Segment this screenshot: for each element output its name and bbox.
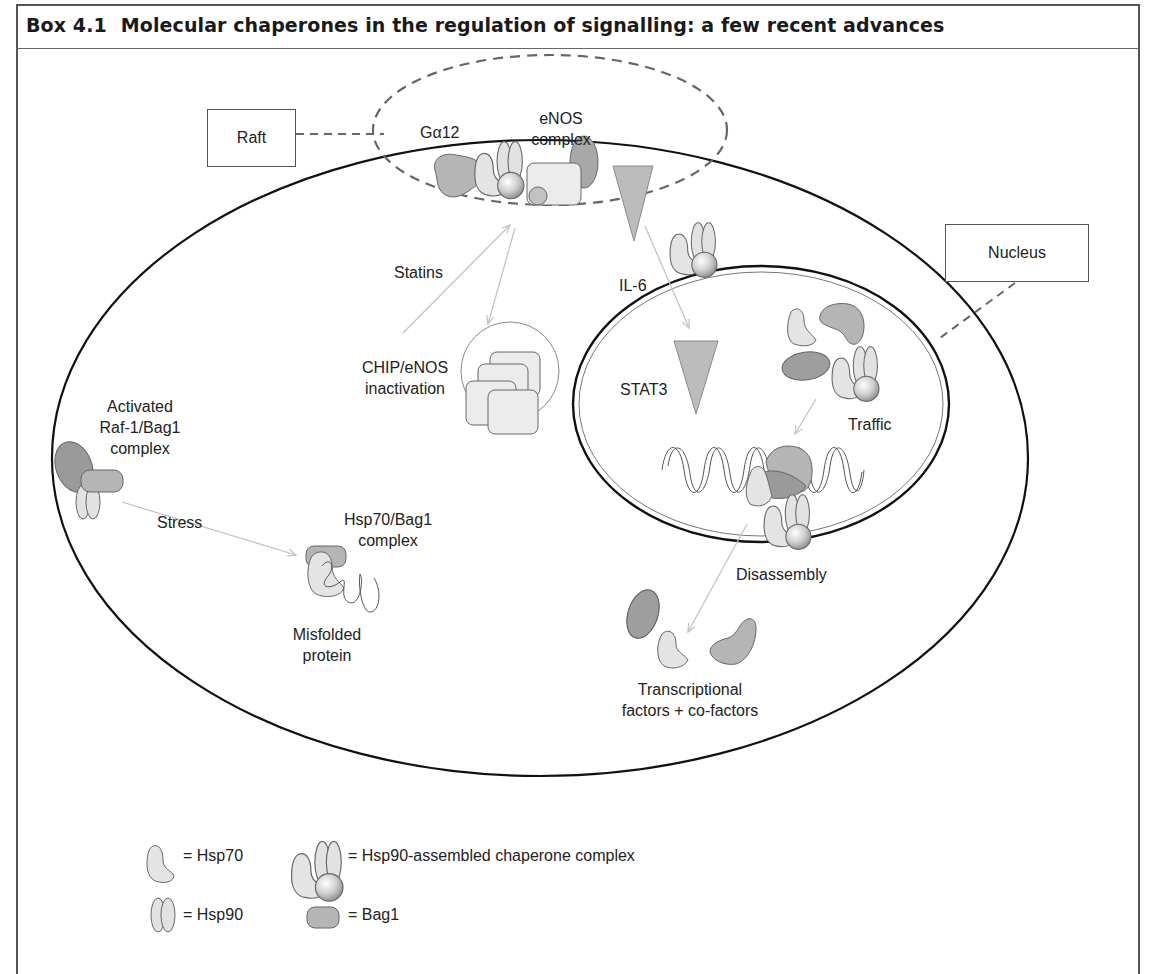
label-stress: Stress xyxy=(157,512,202,533)
nucleus-callout: Nucleus xyxy=(945,224,1089,282)
free-chaperone-complex xyxy=(670,223,717,278)
cell-membrane xyxy=(52,140,1028,776)
label-chip-enos: CHIP/eNOS inactivation xyxy=(355,357,455,399)
label-enos-line2: complex xyxy=(521,129,601,150)
chip-block-4 xyxy=(488,390,538,434)
traffic-arrow xyxy=(795,399,816,434)
label-traffic: Traffic xyxy=(848,414,892,435)
legend-hsp70-icon xyxy=(147,846,174,883)
label-hsp70-bag1: Hsp70/Bag1 complex xyxy=(338,509,438,551)
label-misfolded-protein: Misfolded protein xyxy=(277,624,377,666)
released-cofactor xyxy=(621,586,665,643)
label-chip-line1: CHIP/eNOS xyxy=(355,357,455,378)
legend-hsp90-complex-icon xyxy=(292,841,343,901)
label-misfolded-line2: protein xyxy=(277,645,377,666)
legend-bag1-label: = Bag1 xyxy=(348,906,399,924)
label-galpha12: Gα12 xyxy=(420,122,460,143)
stat3-protein xyxy=(674,341,718,414)
traffic-tf xyxy=(820,304,864,345)
label-raf-line3: complex xyxy=(90,438,190,459)
label-raf1-bag1: Activated Raf-1/Bag1 complex xyxy=(90,396,190,459)
traffic-chaperone-complex xyxy=(832,347,879,402)
raf-bag1 xyxy=(81,470,123,492)
label-raf-line1: Activated xyxy=(90,396,190,417)
label-stat3: STAT3 xyxy=(620,379,667,400)
label-raf-line2: Raf-1/Bag1 xyxy=(90,417,190,438)
raft-chaperone-complex xyxy=(475,142,524,199)
label-tf-line2: factors + co-factors xyxy=(605,700,775,721)
label-chip-line2: inactivation xyxy=(355,378,455,399)
traffic-hsp70 xyxy=(788,309,816,346)
label-enos-line1: eNOS xyxy=(521,108,601,129)
label-hsp70bag1-line2: complex xyxy=(338,530,438,551)
stress-arrow xyxy=(122,502,296,555)
nucleus-leader xyxy=(940,283,1015,338)
nucleus-label: Nucleus xyxy=(988,244,1046,262)
disassembly-chaperone-complex xyxy=(764,495,811,550)
legend-hsp70-label: = Hsp70 xyxy=(183,847,243,865)
traffic-cofactor xyxy=(780,349,831,383)
raft-callout: Raft xyxy=(207,109,296,167)
enos-small-ball xyxy=(529,187,547,205)
released-tf xyxy=(710,619,756,665)
label-transcriptional-factors: Transcriptional factors + co-factors xyxy=(605,679,775,721)
label-disassembly: Disassembly xyxy=(736,564,827,585)
legend-hsp90-icon xyxy=(151,898,175,932)
label-statins: Statins xyxy=(394,262,443,283)
legend-bag1-icon xyxy=(307,907,339,928)
legend-hsp90-label: = Hsp90 xyxy=(183,906,243,924)
label-hsp70bag1-line1: Hsp70/Bag1 xyxy=(338,509,438,530)
raft-label: Raft xyxy=(237,129,266,147)
label-tf-line1: Transcriptional xyxy=(605,679,775,700)
released-hsp70 xyxy=(658,631,688,668)
il6-arrow xyxy=(594,225,618,326)
label-misfolded-line1: Misfolded xyxy=(277,624,377,645)
label-il6: IL-6 xyxy=(619,275,647,296)
label-enos-complex: eNOS complex xyxy=(521,108,601,150)
legend-hsp90-complex-label: = Hsp90-assembled chaperone complex xyxy=(348,847,635,865)
